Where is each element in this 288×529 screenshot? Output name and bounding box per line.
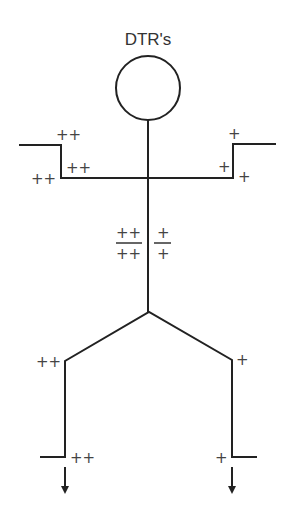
- label-stem-right-numerator: +: [157, 224, 170, 242]
- dtr-diagram: DTR's ++ ++ ++ + + + ++ ++ + + ++ + ++ +: [0, 0, 288, 529]
- label-upper-right-step-top: +: [228, 125, 241, 143]
- label-branch-left-top: ++: [36, 353, 61, 371]
- label-upper-right-step-inner: +: [218, 158, 231, 176]
- label-upper-left-step-top: ++: [56, 126, 81, 144]
- label-branch-right-top: +: [236, 351, 249, 369]
- diagram-title: DTR's: [125, 30, 172, 49]
- label-stem-left-denominator: ++: [116, 245, 141, 263]
- label-foot-right: +: [215, 449, 228, 467]
- label-upper-left-step-outer: ++: [31, 170, 56, 188]
- label-upper-left-step-inner: ++: [66, 159, 91, 177]
- lower-branches: [41, 312, 256, 457]
- label-foot-left: ++: [70, 449, 95, 467]
- label-upper-right-step-outer: +: [238, 168, 251, 186]
- label-stem-right-denominator: +: [157, 245, 170, 263]
- soma-circle: [116, 56, 180, 120]
- label-stem-left-numerator: ++: [116, 224, 141, 242]
